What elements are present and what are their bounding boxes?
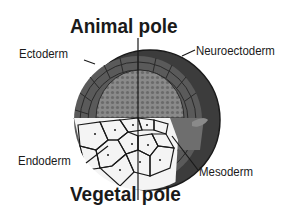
vegetal-pole-label: Vegetal pole <box>70 184 181 204</box>
ectoderm-label: Ectoderm <box>19 47 68 60</box>
ectoderm-leader <box>84 60 95 64</box>
mesoderm-label: Mesoderm <box>199 165 253 178</box>
animal-pole-label: Animal pole <box>70 16 178 36</box>
neuroectoderm-leader <box>182 50 195 56</box>
neuroectoderm-label: Neuroectoderm <box>196 44 275 57</box>
endoderm-label: Endoderm <box>18 154 71 167</box>
